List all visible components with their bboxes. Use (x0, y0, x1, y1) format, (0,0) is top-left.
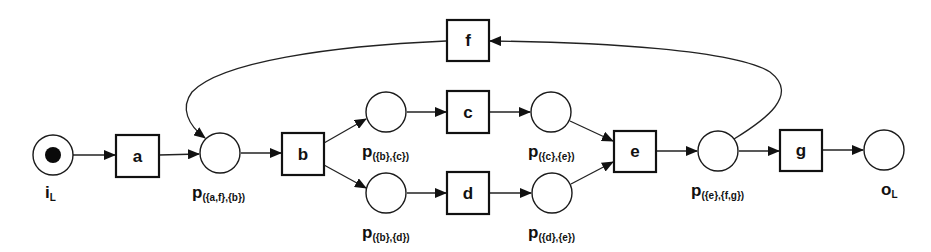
arc-f-p_af_b (186, 41, 446, 138)
place-p_d_e: p({d},{e}) (528, 173, 575, 243)
transition-label-g: g (796, 141, 806, 160)
arc-a-p_af_b (159, 154, 199, 155)
place-label-p_af_b: p({a,f},{b}) (192, 183, 245, 203)
transition-g: g (780, 130, 822, 171)
transition-label-e: e (630, 142, 639, 161)
place-label-oL: oL (881, 180, 898, 200)
arc-b-p_b_c (324, 119, 366, 143)
arc-p_c_e-e (570, 121, 613, 141)
place-p_c_e: p({c},{e}) (528, 92, 575, 162)
transition-f: f (447, 20, 489, 61)
arc-p_d_e-e (571, 162, 613, 184)
place-iL: iL (33, 135, 73, 203)
place-label-p_e_fg: p({e},{f,g}) (691, 181, 744, 201)
place-p_b_c: p({b},{c}) (362, 92, 409, 162)
transition-a: a (116, 135, 159, 177)
place-p_b_d: p({b},{d}) (362, 173, 410, 243)
place-p_e_fg: p({e},{f,g}) (691, 131, 744, 201)
place-p_af_b: p({a,f},{b}) (192, 133, 245, 203)
transition-d: d (447, 172, 489, 214)
transition-e: e (614, 131, 656, 172)
transition-label-b: b (298, 145, 308, 164)
arc-b-p_b_d (324, 165, 366, 188)
place-oL: oL (864, 130, 904, 200)
petri-net-diagram: iL p({a,f},{b}) p({b},{c}) p({b},{d}) p(… (0, 0, 931, 252)
place-label-p_b_d: p({b},{d}) (362, 223, 410, 243)
place-label-iL: iL (45, 183, 56, 203)
transition-c: c (447, 91, 489, 133)
arc-p_e_fg-f (490, 41, 781, 139)
transition-label-d: d (463, 184, 473, 203)
place-label-p_c_e: p({c},{e}) (528, 142, 575, 162)
transition-label-a: a (133, 147, 143, 166)
transition-label-c: c (463, 103, 472, 122)
transition-label-f: f (465, 31, 471, 50)
place-label-p_b_c: p({b},{c}) (362, 142, 409, 162)
transition-b: b (282, 133, 324, 175)
token-icon (45, 147, 61, 163)
place-label-p_d_e: p({d},{e}) (528, 223, 575, 243)
